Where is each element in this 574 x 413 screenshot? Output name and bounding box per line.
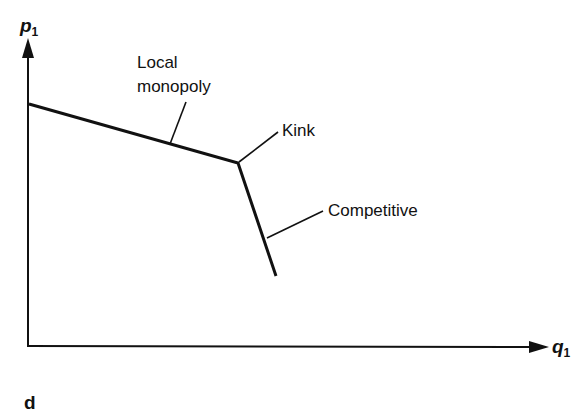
panel-label: d: [24, 392, 36, 413]
competitive-label: Competitive: [328, 201, 418, 220]
x-axis-label: q1: [552, 336, 571, 360]
local-monopoly-leader: [170, 102, 186, 144]
kink-leader: [239, 132, 278, 162]
x-axis: [27, 346, 532, 347]
local-monopoly-label-line2: monopoly: [137, 77, 211, 96]
demand-curve: [29, 104, 276, 276]
competitive-leader: [267, 211, 323, 238]
y-axis-arrowhead: [22, 38, 34, 58]
kink-label: Kink: [282, 121, 316, 140]
y-axis-label: p1: [19, 15, 39, 39]
x-axis-arrowhead: [529, 341, 549, 353]
local-monopoly-label-line1: Local: [137, 53, 178, 72]
kinked-demand-diagram: p1 q1 Local monopoly Kink Competitive d: [0, 0, 574, 413]
